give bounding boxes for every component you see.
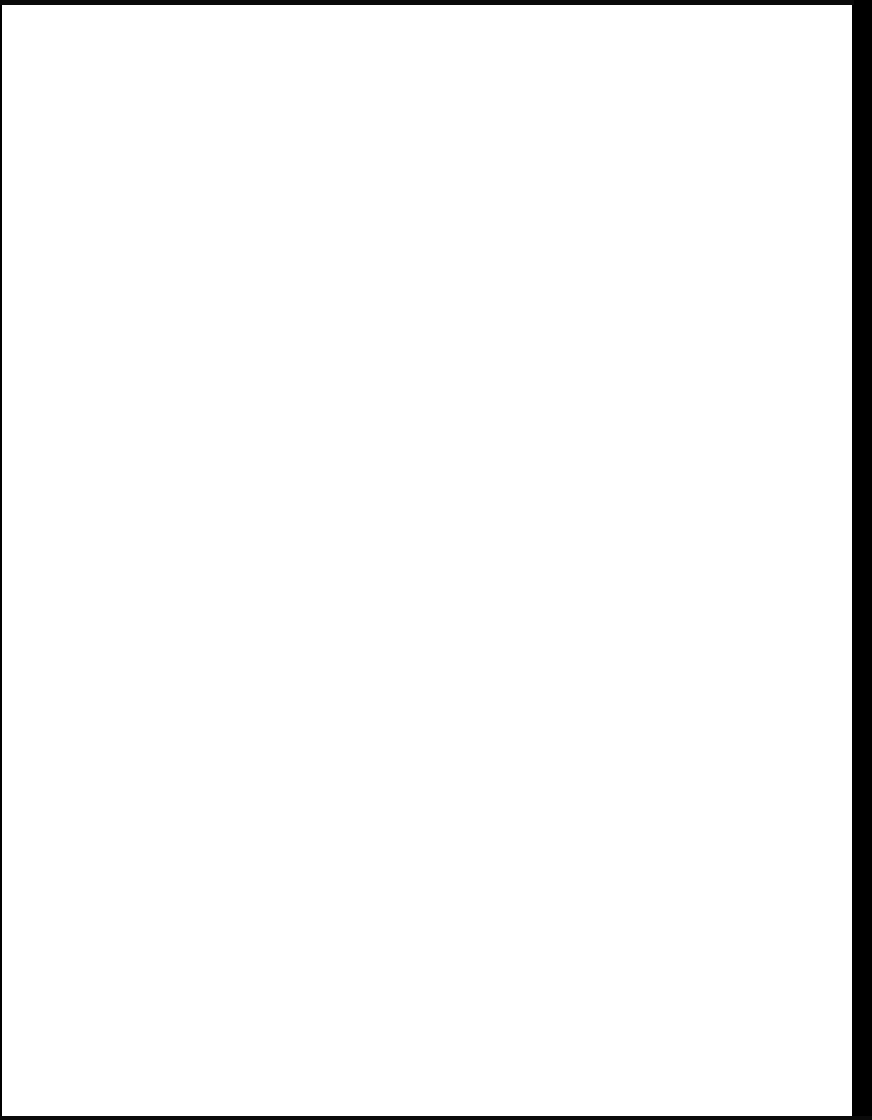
blank-page (2, 5, 852, 1116)
scan-border-top (0, 0, 872, 5)
scan-border-bottom (0, 1116, 872, 1120)
scan-border-right (854, 0, 872, 1120)
